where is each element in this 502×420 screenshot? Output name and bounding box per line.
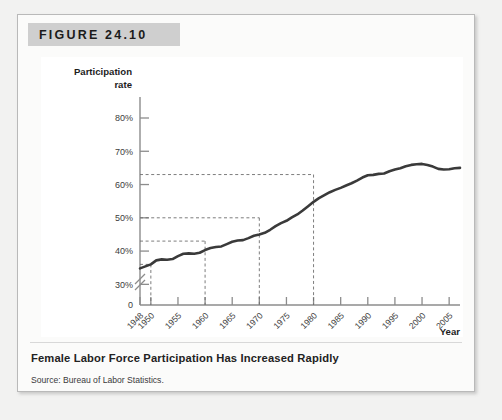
x-axis-tick-label: 1990 xyxy=(353,310,374,331)
y-axis-origin-label: 0 xyxy=(128,300,133,310)
series-line-female-participation xyxy=(140,164,460,268)
y-axis-title-line2: rate xyxy=(114,79,132,90)
x-axis-tick-label: 1980 xyxy=(298,310,319,331)
x-axis-tick-label: 1965 xyxy=(217,310,238,331)
caption-divider xyxy=(30,342,462,343)
x-axis-tick-label: 1970 xyxy=(244,310,265,331)
participation-rate-line-chart: Participationrate80%70%60%50%40%30%01948… xyxy=(41,57,463,337)
figure-header-band: FIGURE 24.10 xyxy=(28,23,180,46)
x-axis-tick-label: 1960 xyxy=(190,310,211,331)
x-axis-tick-label: 1985 xyxy=(325,310,346,331)
x-axis-tick-label: 1995 xyxy=(380,310,401,331)
y-axis-tick-label: 50% xyxy=(115,213,133,223)
figure-page: FIGURE 24.10 Participationrate80%70%60%5… xyxy=(0,0,502,420)
x-axis-tick-label: 1955 xyxy=(163,310,184,331)
figure-caption-area: Female Labor Force Participation Has Inc… xyxy=(18,342,474,392)
y-axis-tick-label: 40% xyxy=(115,246,133,256)
y-axis-tick-label: 80% xyxy=(115,113,133,123)
y-axis-tick-label: 30% xyxy=(115,280,133,290)
chart-plot-panel: Participationrate80%70%60%50%40%30%01948… xyxy=(41,57,463,337)
x-axis-tick-label: 1975 xyxy=(271,310,292,331)
figure-number-label: FIGURE 24.10 xyxy=(39,28,147,42)
y-axis-title-line1: Participation xyxy=(74,66,132,77)
y-axis-tick-label: 60% xyxy=(115,180,133,190)
x-axis-tick-label: 2000 xyxy=(407,310,428,331)
y-axis-tick-label: 70% xyxy=(115,147,133,157)
figure-source-note: Source: Bureau of Labor Statistics. xyxy=(31,375,164,385)
figure-card: FIGURE 24.10 Participationrate80%70%60%5… xyxy=(17,14,475,392)
figure-caption-title: Female Labor Force Participation Has Inc… xyxy=(31,352,339,364)
x-axis-title: Year xyxy=(440,326,461,337)
